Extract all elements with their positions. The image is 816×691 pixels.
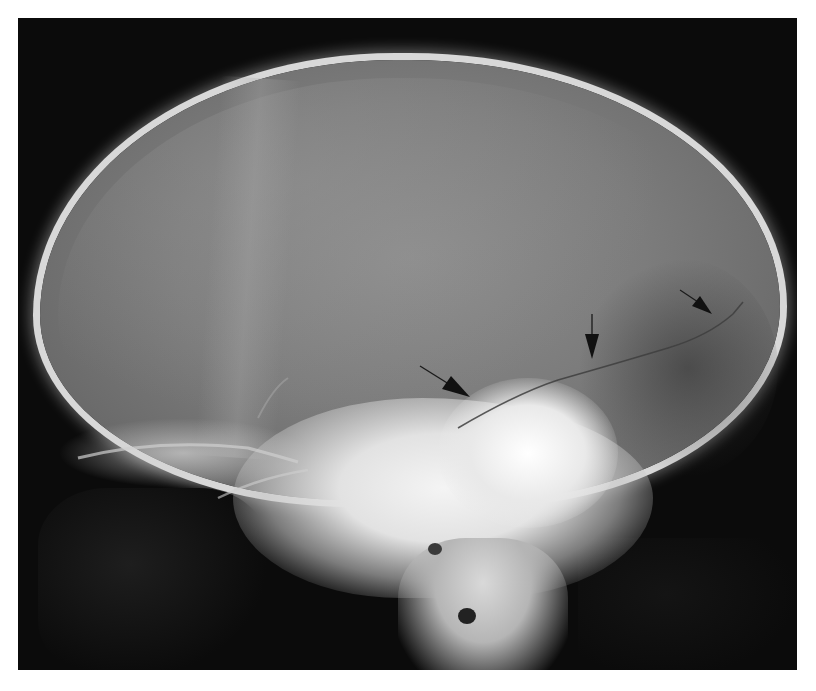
posterior-neck-shadow: [578, 538, 797, 670]
foramen-2: [458, 608, 476, 624]
arrow-icon-lower-left: [418, 362, 478, 402]
coronal-density-band: [195, 76, 301, 461]
cranial-vault: [40, 60, 780, 500]
foramen-1: [428, 543, 442, 555]
fracture-overlay: [18, 18, 797, 670]
vault-highlight: [58, 78, 758, 488]
anterior-cranial-base: [58, 418, 308, 488]
arrow-icon-middle: [582, 314, 602, 364]
skull-base: [233, 398, 653, 598]
facial-soft-tissue-shadow: [38, 488, 268, 670]
xray-film: [18, 18, 797, 670]
arrow-icon-upper-right: [678, 288, 718, 318]
cervical-spine: [398, 538, 568, 670]
